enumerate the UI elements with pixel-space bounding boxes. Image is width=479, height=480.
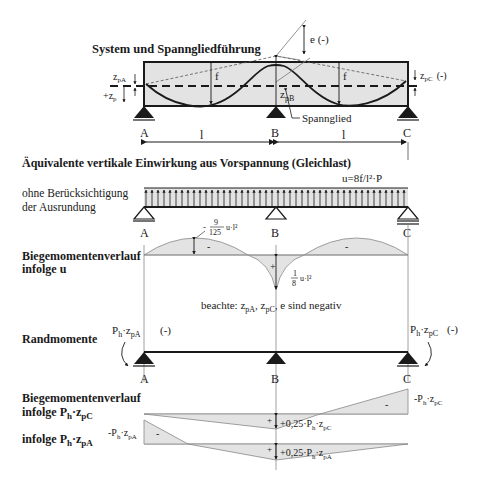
support-B-icon — [266, 106, 286, 118]
load-support-label-B: B — [271, 226, 279, 240]
moment-end-title-2: infolge Ph·zpC — [22, 405, 93, 421]
moment-u-title-2: infolge u — [22, 262, 67, 276]
pin-support-C-icon — [398, 207, 418, 219]
e-construction-line-2 — [276, 56, 300, 60]
moment-zpA-left-value: -Ph·zpA — [108, 427, 137, 441]
moment-end-title-1: Biegemomentenverlauf — [22, 391, 142, 405]
end-moment-right-label: Ph·zpC — [410, 323, 438, 338]
sign-note: beachte: zpA, zpC, e sind negativ — [201, 299, 342, 314]
end-support-label-B: B — [271, 372, 279, 386]
moment-zpC-negative — [320, 389, 408, 414]
moment-u-title-1: Biegemomentenverlauf — [22, 249, 142, 263]
end-moments-title: Randmomente — [22, 332, 98, 346]
span-right-label: l — [342, 128, 346, 142]
load-formula: u=8f/l²·P — [342, 172, 382, 184]
end-support-label-A: A — [140, 372, 149, 386]
moment-zpC-right-value: -Ph·zpC — [414, 393, 443, 407]
moment-u-sign-support: + — [270, 261, 276, 272]
spannglied-label: Spannglied — [302, 112, 352, 124]
span-value-prefix: - — [203, 222, 206, 232]
load-support-label-A: A — [140, 226, 149, 240]
pin-support-A-icon — [134, 207, 154, 219]
end-moment-left-sign: (-) — [160, 324, 171, 337]
end-moment-right-sign: (-) — [447, 323, 458, 336]
end-support-C-icon — [398, 352, 418, 364]
support-value-suffix: u·l² — [300, 274, 312, 283]
support-value-numerator: 1 — [293, 269, 297, 278]
support-A-icon — [134, 106, 154, 118]
f-right-label: f — [343, 70, 347, 82]
moment-zpA-positive-left — [188, 444, 276, 460]
end-support-A-icon — [134, 352, 154, 364]
moment-zpA-sign-minus: - — [156, 428, 159, 439]
span-value-denominator: 125 — [209, 228, 221, 237]
moment-arrow-left-icon — [122, 342, 128, 366]
moment-u-span-right — [304, 238, 408, 255]
note-line-1: ohne Berücksichtigung — [22, 187, 129, 200]
end-support-B-icon — [266, 352, 286, 364]
system-title: System und Spanngliedführung — [92, 42, 262, 56]
moment-u-sign-right: - — [345, 241, 348, 252]
support-label-B: B — [271, 126, 279, 140]
prestress-diagram: System und Spanngliedführung e (-) zpB f… — [0, 0, 479, 480]
f-left-label: f — [215, 70, 219, 82]
span-value-numerator: 9 — [214, 218, 218, 227]
e-label: e (-) — [310, 33, 329, 46]
end-support-label-C: C — [403, 372, 411, 386]
load-support-label-C: C — [403, 226, 411, 240]
span-left-label: l — [200, 128, 204, 142]
moment-zpC-positive-left — [144, 414, 276, 429]
end-moment-left-label: Ph·zpA — [112, 324, 141, 339]
equivalent-load-title: Äquivalente vertikale Einwirkung aus Vor… — [22, 156, 351, 170]
moment-zpA-negative — [144, 420, 188, 444]
e-construction-line — [276, 20, 306, 56]
note-line-2: der Ausrundung — [22, 201, 96, 214]
moment-u-sign-left: - — [207, 241, 210, 252]
span-value-suffix: u·l² — [226, 223, 238, 232]
moment-arrow-right-icon — [425, 342, 431, 366]
support-label-A: A — [140, 126, 149, 140]
pin-support-B-icon — [266, 207, 286, 219]
zpA-label: zpA — [113, 71, 126, 84]
support-C-icon — [398, 106, 418, 118]
moment-end-title-3: infolge Ph·zpA — [22, 432, 93, 448]
zp-positive-label: +zp — [103, 90, 117, 103]
zpC-label: zpC(-) — [420, 70, 447, 83]
support-label-C: C — [403, 126, 411, 140]
moment-zpC-sign-plus: + — [267, 415, 272, 425]
moment-zpC-sign-minus: - — [385, 399, 388, 410]
moment-zpA-sign-plus: + — [267, 444, 272, 454]
moment-zpC-mid-value: +0,25·Ph·zpC — [280, 418, 332, 432]
support-value-denominator: 8 — [292, 279, 296, 288]
moment-u-span-left — [144, 238, 248, 255]
span-value-leader — [196, 231, 205, 238]
